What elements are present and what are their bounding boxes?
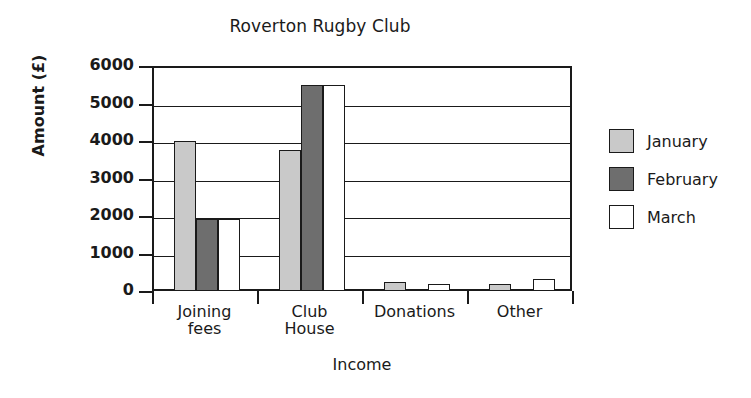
- y-tick-mark: [139, 179, 152, 181]
- y-tick-label: 4000: [76, 132, 134, 148]
- legend-label: January: [647, 132, 708, 151]
- bar-groups: [152, 66, 572, 291]
- chart-title: Roverton Rugby Club: [0, 16, 640, 36]
- bar-january-club-house: [279, 150, 301, 291]
- chart-container: Roverton Rugby Club Amount (£) 010002000…: [0, 0, 751, 398]
- y-axis-title: Amount (£): [29, 6, 48, 206]
- bar-march-other: [533, 279, 555, 291]
- y-tick-label: 3000: [76, 170, 134, 186]
- chart-legend: JanuaryFebruaryMarch: [609, 122, 751, 236]
- x-category-label-line1: Club: [257, 303, 362, 320]
- y-tick-mark: [139, 141, 152, 143]
- x-category-label: Other: [467, 303, 572, 320]
- x-category-label: Joiningfees: [152, 303, 257, 337]
- legend-label: March: [647, 208, 696, 227]
- y-tick-label: 6000: [76, 57, 134, 73]
- y-tick-mark: [139, 66, 152, 68]
- bar-march-joining-fees: [218, 219, 240, 291]
- bar-march-donations: [428, 284, 450, 291]
- x-category-label-line1: Other: [467, 303, 572, 320]
- y-tick-mark: [139, 291, 152, 293]
- y-tick-label: 2000: [76, 207, 134, 223]
- x-axis-title: Income: [152, 355, 572, 374]
- bar-february-joining-fees: [196, 219, 218, 291]
- legend-label: February: [647, 170, 718, 189]
- bar-february-club-house: [301, 85, 323, 291]
- y-tick-mark: [139, 104, 152, 106]
- legend-swatch-icon: [609, 129, 634, 153]
- legend-swatch-icon: [609, 205, 634, 229]
- legend-swatch-icon: [609, 167, 634, 191]
- bar-january-donations: [384, 282, 406, 291]
- bar-january-joining-fees: [174, 141, 196, 291]
- x-category-label-line1: Joining: [152, 303, 257, 320]
- x-tick-mark: [572, 291, 574, 304]
- y-tick-label: 1000: [76, 245, 134, 261]
- y-tick-mark: [139, 254, 152, 256]
- y-tick-label: 5000: [76, 95, 134, 111]
- x-category-label: Donations: [362, 303, 467, 320]
- legend-item-march[interactable]: March: [609, 198, 751, 236]
- x-category-label: ClubHouse: [257, 303, 362, 337]
- y-tick-mark: [139, 216, 152, 218]
- legend-item-january[interactable]: January: [609, 122, 751, 160]
- bar-march-club-house: [323, 85, 345, 291]
- bar-january-other: [489, 284, 511, 292]
- x-category-label-line2: fees: [152, 320, 257, 337]
- bar-february-other: [511, 289, 533, 291]
- legend-item-february[interactable]: February: [609, 160, 751, 198]
- x-category-label-line2: House: [257, 320, 362, 337]
- y-tick-label: 0: [76, 282, 134, 298]
- x-category-label-line1: Donations: [362, 303, 467, 320]
